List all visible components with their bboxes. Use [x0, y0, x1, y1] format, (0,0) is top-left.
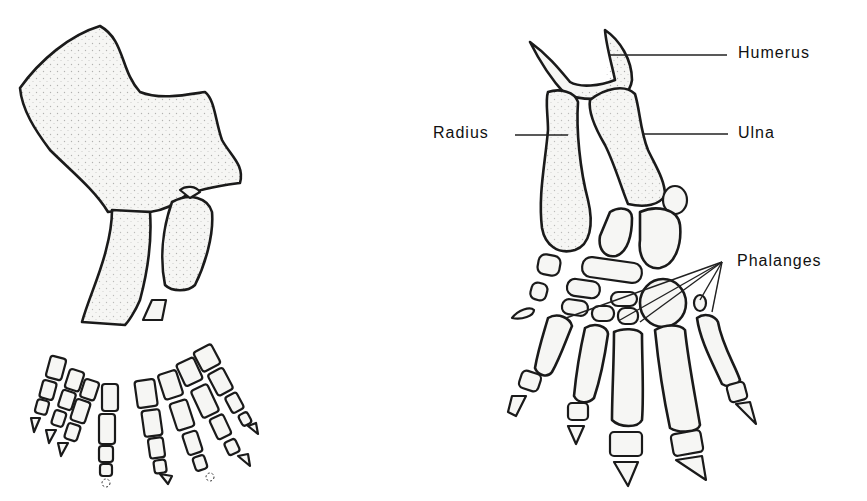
right-forelimb [508, 30, 756, 486]
left-digit-rows [31, 344, 258, 487]
phalanges-label: Phalanges [737, 252, 822, 270]
left-fossil-limb [20, 26, 241, 325]
left-carpal-fragment [143, 300, 166, 320]
digit-row-4 [99, 384, 118, 487]
humerus-label: Humerus [738, 44, 810, 62]
diagram-canvas [0, 0, 867, 501]
right-digits [508, 315, 756, 486]
ulna-label: Ulna [738, 124, 775, 142]
radius-label: Radius [433, 124, 489, 142]
carpal-bones [512, 253, 706, 327]
